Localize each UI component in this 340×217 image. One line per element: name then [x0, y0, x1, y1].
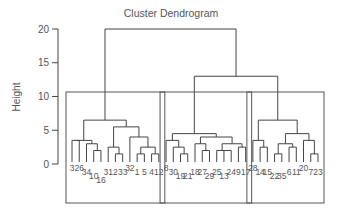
leaf-label: 35: [277, 171, 287, 181]
leaf-label: 5: [142, 167, 147, 177]
leaf-label: 12: [154, 167, 164, 177]
leaf-label: 31: [103, 167, 113, 177]
leaf-label: 23: [313, 167, 323, 177]
chart-title: Cluster Dendrogram: [124, 7, 219, 19]
y-tick-label: 0: [43, 159, 49, 170]
y-tick-label: 10: [38, 91, 50, 102]
cluster-3-box: [247, 92, 324, 203]
y-axis-label: Height: [11, 82, 22, 111]
leaf-label: 32: [125, 163, 135, 173]
y-axis: 05101520: [38, 24, 58, 170]
y-tick-label: 15: [38, 57, 50, 68]
leaf-labels: 3263410163123332154128301921182729251324…: [70, 163, 323, 185]
leaf-label: 24: [226, 167, 236, 177]
leaf-label: 20: [299, 163, 309, 173]
dendrogram-tree: [72, 29, 318, 162]
leaf-label: 1: [135, 167, 140, 177]
y-tick-label: 5: [43, 125, 49, 136]
y-tick-label: 20: [38, 24, 50, 35]
dendrogram-chart: Cluster Dendrogram Height 05101520 32634…: [0, 0, 340, 217]
